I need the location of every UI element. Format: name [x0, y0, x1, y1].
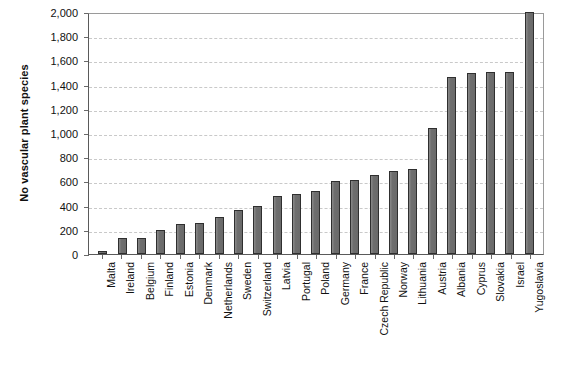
y-tick-label: 1,800: [50, 31, 78, 43]
bar[interactable]: [331, 181, 340, 254]
bar[interactable]: [292, 194, 301, 254]
bar-slot: [171, 14, 190, 254]
bar[interactable]: [447, 77, 456, 254]
bar-slot: [481, 14, 500, 254]
bar[interactable]: [428, 128, 437, 254]
bar[interactable]: [234, 210, 243, 254]
x-label-slot: Portugal: [287, 260, 306, 368]
x-label-slot: Cyprus: [462, 260, 481, 368]
x-label-slot: Estonia: [170, 260, 189, 368]
bar-slot: [268, 14, 287, 254]
x-label-slot: Belgium: [131, 260, 150, 368]
bar[interactable]: [486, 72, 495, 254]
bar[interactable]: [195, 223, 204, 254]
x-label-slot: Sweden: [228, 260, 247, 368]
bar[interactable]: [370, 175, 379, 254]
x-label-slot: Germany: [326, 260, 345, 368]
y-tick-label: 1,200: [50, 104, 78, 116]
x-label-slot: France: [345, 260, 364, 368]
x-label-slot: Albania: [443, 260, 462, 368]
x-label-slot: Denmark: [189, 260, 208, 368]
x-label-slot: Norway: [384, 260, 403, 368]
bar[interactable]: [156, 230, 165, 254]
bar-slot: [229, 14, 248, 254]
bar-slot: [461, 14, 480, 254]
bar-slot: [93, 14, 112, 254]
bar-slot: [306, 14, 325, 254]
bar[interactable]: [467, 73, 476, 255]
plot-area: [88, 13, 544, 255]
x-label-slot: Poland: [306, 260, 325, 368]
bar-slot: [248, 14, 267, 254]
x-label-slot: Ireland: [111, 260, 130, 368]
x-label-slot: Israel: [501, 260, 520, 368]
bar[interactable]: [118, 238, 127, 254]
bar[interactable]: [253, 206, 262, 254]
bar[interactable]: [389, 171, 398, 254]
bar-slot: [326, 14, 345, 254]
y-axis-tick-labels: 2,0001,8001,6001,4001,2001,0008006004002…: [38, 13, 82, 255]
x-label-slot: Slovakia: [482, 260, 501, 368]
bar[interactable]: [408, 169, 417, 254]
bar-slot: [112, 14, 131, 254]
bar-slot: [423, 14, 442, 254]
y-tick-label: 0: [72, 249, 78, 261]
y-axis-title: No vascular plant species: [12, 13, 36, 253]
x-label-slot: Austria: [423, 260, 442, 368]
y-tick-label: 1,000: [50, 128, 78, 140]
bars-layer: [89, 14, 543, 254]
bar-slot: [403, 14, 422, 254]
bar-slot: [345, 14, 364, 254]
x-label-slot: Czech Republic: [365, 260, 384, 368]
y-tick-label: 600: [60, 176, 78, 188]
y-tick-label: 200: [60, 225, 78, 237]
bar-chart-figure: No vascular plant species 2,0001,8001,60…: [0, 0, 561, 370]
bar[interactable]: [350, 180, 359, 254]
bar[interactable]: [176, 224, 185, 254]
bar[interactable]: [137, 238, 146, 254]
x-label-slot: Yugoslavia: [521, 260, 540, 368]
bar-slot: [364, 14, 383, 254]
bar-slot: [442, 14, 461, 254]
bar[interactable]: [273, 196, 282, 254]
y-axis-title-label: No vascular plant species: [18, 64, 30, 202]
x-tick-label: Yugoslavia: [534, 262, 545, 313]
bar[interactable]: [505, 72, 514, 254]
bar-slot: [500, 14, 519, 254]
x-label-slot: Malta: [92, 260, 111, 368]
bar[interactable]: [311, 191, 320, 254]
bar[interactable]: [525, 12, 534, 254]
y-tick-label: 1,400: [50, 80, 78, 92]
y-tick-label: 400: [60, 201, 78, 213]
bar[interactable]: [215, 217, 224, 255]
bar[interactable]: [98, 251, 107, 254]
bar-slot: [520, 14, 539, 254]
x-label-slot: Lithuania: [404, 260, 423, 368]
bar-slot: [132, 14, 151, 254]
x-label-slot: Latvia: [267, 260, 286, 368]
y-tick-label: 2,000: [50, 7, 78, 19]
y-tick-label: 1,600: [50, 55, 78, 67]
y-tick-label: 800: [60, 152, 78, 164]
bar-slot: [384, 14, 403, 254]
bar-slot: [209, 14, 228, 254]
x-label-slot: Netherlands: [209, 260, 228, 368]
bar-slot: [190, 14, 209, 254]
x-label-slot: Finland: [150, 260, 169, 368]
bar-slot: [287, 14, 306, 254]
x-axis-category-labels: MaltaIrelandBelgiumFinlandEstoniaDenmark…: [88, 260, 544, 368]
bar-slot: [151, 14, 170, 254]
x-label-slot: Switzerland: [248, 260, 267, 368]
